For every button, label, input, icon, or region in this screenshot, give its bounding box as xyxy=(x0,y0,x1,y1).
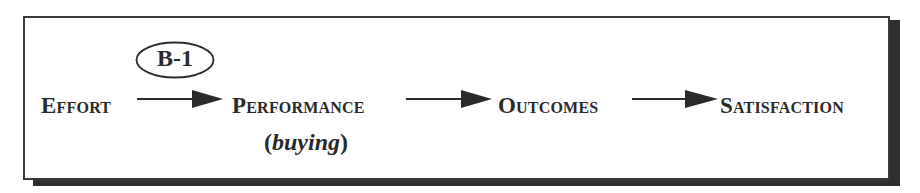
node-outcomes: Outcomes xyxy=(498,94,598,117)
node-effort: Effort xyxy=(41,94,111,117)
arrow-icon xyxy=(137,89,225,109)
node-performance: Performance xyxy=(232,94,365,117)
node-performance-sublabel: (buying) xyxy=(264,130,348,154)
node-satisfaction: Satisfaction xyxy=(720,94,844,117)
arrow-icon xyxy=(406,89,494,109)
badge-label: B-1 xyxy=(135,46,215,70)
arrow-icon xyxy=(632,89,720,109)
